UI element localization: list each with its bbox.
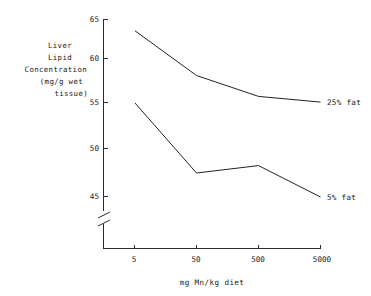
x-axis-title: mg Mn/kg diet	[180, 278, 245, 287]
y-axis-title-line-5: tissue)	[54, 89, 88, 98]
series-label-25-percent-fat-group: 25% fat	[327, 98, 361, 107]
y-tick-marks	[104, 20, 109, 197]
x-tick-marks	[135, 245, 321, 249]
x-tick-labels: 5 50 500 5000	[132, 255, 332, 264]
series-label-25-percent-fat: 25% fat	[327, 98, 361, 107]
y-tick-label-55: 55	[90, 98, 99, 107]
x-tick-label-50: 50	[191, 255, 201, 264]
series-line-5-percent-fat	[135, 103, 321, 197]
y-axis-title-line-4: (mg/g wet	[40, 77, 83, 86]
y-tick-label-45: 45	[90, 192, 99, 201]
x-tick-label-5: 5	[132, 255, 137, 264]
x-tick-label-500: 500	[251, 255, 265, 264]
y-tick-labels: 65 60 55 50 45	[90, 15, 100, 201]
y-axis-break-icon	[98, 212, 110, 226]
y-tick-label-65: 65	[90, 15, 99, 24]
y-axis-title-line-3: Concentration	[25, 65, 87, 74]
chart-container: Liver Lipid Concentration (mg/g wet tiss…	[0, 0, 371, 296]
x-tick-label-5000: 5000	[313, 255, 332, 264]
series-line-25-percent-fat	[135, 31, 321, 102]
y-tick-label-50: 50	[90, 144, 100, 153]
line-chart: Liver Lipid Concentration (mg/g wet tiss…	[0, 0, 371, 296]
y-axis-title-line-1: Liver	[48, 41, 72, 50]
series-label-5-percent-fat: 5% fat	[327, 193, 356, 202]
series-label-5-percent-fat-group: 5% fat	[327, 193, 356, 202]
y-axis-title: Liver Lipid Concentration (mg/g wet tiss…	[25, 41, 88, 98]
y-axis-title-line-2: Lipid	[48, 53, 72, 62]
y-tick-label-60: 60	[90, 54, 100, 63]
